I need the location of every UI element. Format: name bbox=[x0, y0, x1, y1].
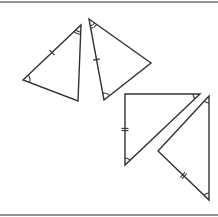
angle-arc-mark bbox=[204, 101, 209, 103]
angle-arc-mark bbox=[76, 30, 81, 32]
triangle-outline bbox=[158, 96, 209, 200]
angle-arc-mark bbox=[125, 158, 130, 160]
angle-arc-mark bbox=[204, 193, 209, 195]
congruent-triangles-diagram bbox=[0, 0, 218, 217]
triangle-2 bbox=[89, 19, 151, 100]
triangle-outline bbox=[125, 94, 200, 165]
triangles-group bbox=[23, 19, 209, 200]
triangle-outline bbox=[23, 25, 81, 101]
triangle-1 bbox=[23, 25, 81, 101]
angle-arc-mark bbox=[193, 94, 195, 99]
triangle-4 bbox=[158, 96, 209, 200]
angle-arc-mark bbox=[90, 23, 94, 26]
side-tick-mark bbox=[93, 59, 100, 60]
